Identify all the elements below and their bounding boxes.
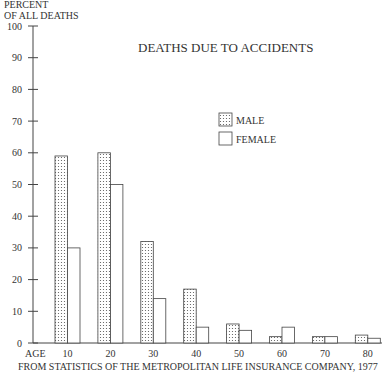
- legend-label-male: MALE: [236, 115, 264, 126]
- bar-male-80: [355, 335, 368, 343]
- bar-male-50: [227, 324, 240, 343]
- x-tick-label: 70: [320, 348, 330, 359]
- chart-title: DEATHS DUE TO ACCIDENTS: [138, 40, 313, 55]
- x-tick-label: 10: [63, 348, 73, 359]
- x-tick-label: 80: [363, 348, 373, 359]
- y-tick-label: 40: [12, 211, 22, 222]
- y-tick-label: 30: [12, 242, 22, 253]
- bar-male-30: [141, 242, 154, 343]
- y-tick-label: 10: [12, 306, 22, 317]
- bar-male-60: [270, 337, 283, 343]
- x-tick-label: 20: [105, 348, 115, 359]
- bar-male-40: [184, 289, 197, 343]
- bar-male-70: [312, 337, 325, 343]
- bar-female-80: [368, 338, 381, 343]
- legend: MALE FEMALE: [219, 113, 276, 145]
- y-tick-label: 0: [17, 338, 22, 349]
- bar-female-10: [68, 248, 81, 343]
- y-tick-label: 50: [12, 179, 22, 190]
- y-tick-label: 70: [12, 116, 22, 127]
- legend-swatch-male: [219, 113, 232, 126]
- y-tick-label: 100: [7, 21, 22, 32]
- bar-female-40: [196, 327, 209, 343]
- x-tick-label: 60: [277, 348, 287, 359]
- x-tick-label: 40: [191, 348, 201, 359]
- legend-label-female: FEMALE: [236, 134, 276, 145]
- bar-female-60: [282, 327, 295, 343]
- bars: [55, 153, 380, 343]
- y-axis-label-line2: OF ALL DEATHS: [4, 10, 79, 21]
- bar-female-70: [325, 337, 338, 343]
- y-tick-label: 60: [12, 147, 22, 158]
- bar-female-50: [239, 330, 252, 343]
- x-tick-label: 50: [234, 348, 244, 359]
- bar-chart: PERCENT OF ALL DEATHS DEATHS DUE TO ACCI…: [0, 0, 390, 377]
- legend-swatch-female: [219, 132, 232, 145]
- y-tick-label: 20: [12, 274, 22, 285]
- bar-female-20: [110, 185, 123, 344]
- x-axis-label: AGE: [25, 348, 46, 359]
- y-axis-label-line1: PERCENT: [4, 0, 48, 10]
- bar-male-10: [55, 156, 68, 343]
- source-note: FROM STATISTICS OF THE METROPOLITAN LIFE…: [18, 361, 378, 372]
- y-tick-label: 90: [12, 52, 22, 63]
- y-tick-label: 80: [12, 84, 22, 95]
- bar-male-20: [98, 153, 111, 343]
- bar-female-30: [153, 299, 166, 343]
- x-tick-label: 30: [148, 348, 158, 359]
- x-axis-tick-labels: 1020304050607080: [63, 348, 373, 359]
